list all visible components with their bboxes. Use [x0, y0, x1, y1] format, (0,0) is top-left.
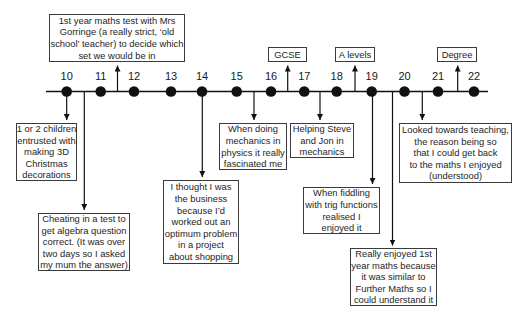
milestone-box-a-levels: A levels: [335, 47, 375, 62]
event-box-trig-functions: When fiddling with trig functions realis…: [303, 187, 380, 234]
age-dot-17: [299, 86, 310, 97]
age-label: 20: [398, 70, 410, 82]
event-box-teaching: Looked towards teaching, the reason bein…: [399, 123, 512, 183]
age-label: 15: [231, 70, 243, 82]
age-label: 19: [366, 70, 378, 82]
event-box-maths-test: 1st year maths test with Mrs Gorringe (a…: [49, 14, 185, 62]
event-box-cheating-test: Cheating in a test to get algebra questi…: [38, 213, 130, 271]
age-label: 14: [196, 70, 208, 82]
age-label: 16: [265, 70, 277, 82]
age-dot-13: [166, 86, 177, 97]
event-box-optimum-problem: I thought I was the business because I’d…: [163, 180, 239, 264]
age-label: 18: [331, 70, 343, 82]
age-label: 13: [165, 70, 177, 82]
age-dot-15: [231, 86, 242, 97]
age-dot-10: [61, 86, 72, 97]
age-label: 22: [468, 70, 480, 82]
age-dot-19: [366, 86, 377, 97]
age-dot-18: [331, 86, 342, 97]
age-label: 10: [61, 70, 73, 82]
age-dot-11: [95, 86, 106, 97]
event-box-helping-steve-jon: Helping Steve and Jon in mechanics: [290, 123, 354, 158]
age-dot-20: [399, 86, 410, 97]
age-dot-16: [266, 86, 277, 97]
age-label: 11: [95, 70, 106, 82]
age-label: 17: [298, 70, 310, 82]
age-dot-14: [197, 86, 208, 97]
age-label: 21: [432, 70, 444, 82]
age-label: 12: [128, 70, 140, 82]
age-dot-21: [433, 86, 444, 97]
event-box-mechanics-physics: When doing mechanics in physics it reall…: [219, 123, 287, 170]
milestone-box-degree: Degree: [437, 47, 477, 62]
event-box-christmas-decorations: 1 or 2 children entrusted with making 3D…: [16, 123, 77, 181]
maths-timeline-diagram: 10 11 12 13 14 15 16 17 18 19 20 21 22 1…: [0, 0, 527, 321]
age-dot-12: [129, 86, 140, 97]
event-box-first-year-maths: Really enjoyed 1st year maths because it…: [350, 248, 437, 306]
age-dot-22: [469, 86, 480, 97]
milestone-box-gcse: GCSE: [268, 47, 307, 62]
